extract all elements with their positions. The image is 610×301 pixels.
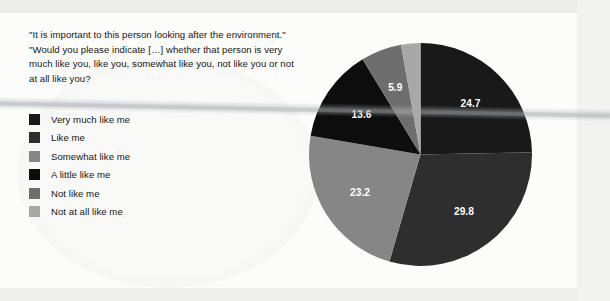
- pie-slice-value-label: 29.8: [454, 206, 474, 217]
- legend-item-a-little-like-me: A little like me: [29, 166, 130, 184]
- legend-swatch-icon: [29, 206, 40, 217]
- legend-item-not-at-all-like-me: Not at all like me: [29, 203, 130, 221]
- pie-slice-group: [309, 43, 532, 266]
- legend-swatch-icon: [29, 151, 40, 162]
- pie-slice-value-label: 24.7: [461, 98, 481, 109]
- legend-swatch-icon: [29, 188, 40, 199]
- legend-item-like-me: Like me: [29, 129, 130, 147]
- legend-item-not-like-me: Not like me: [29, 184, 130, 202]
- legend-swatch-icon: [29, 169, 40, 180]
- scan-top-strip: [0, 0, 577, 13]
- legend-item-label: A little like me: [51, 169, 110, 180]
- pie-slice-value-label: 23.2: [350, 187, 370, 198]
- pie-slice-value-label: 5.9: [388, 82, 402, 93]
- legend-item-label: Not at all like me: [51, 206, 123, 217]
- legend-swatch-icon: [29, 132, 40, 143]
- legend-item-label: Very much like me: [51, 114, 130, 125]
- pie-slice-value-label: 13.6: [352, 109, 372, 120]
- chart-legend: Very much like me Like me Somewhat like …: [29, 110, 130, 222]
- legend-swatch-icon: [29, 114, 40, 125]
- survey-question-text: "It is important to this person looking …: [29, 28, 297, 86]
- legend-item-label: Somewhat like me: [51, 151, 130, 162]
- pie-chart: 24.729.823.213.65.92.8: [309, 43, 532, 266]
- legend-item-label: Not like me: [51, 188, 100, 199]
- pie-chart-svg: 24.729.823.213.65.92.8: [309, 43, 532, 266]
- legend-item-somewhat-like-me: Somewhat like me: [29, 147, 130, 165]
- legend-item-label: Like me: [51, 132, 85, 143]
- legend-item-very-much-like-me: Very much like me: [29, 110, 130, 128]
- scan-bottom-strip: [0, 288, 577, 301]
